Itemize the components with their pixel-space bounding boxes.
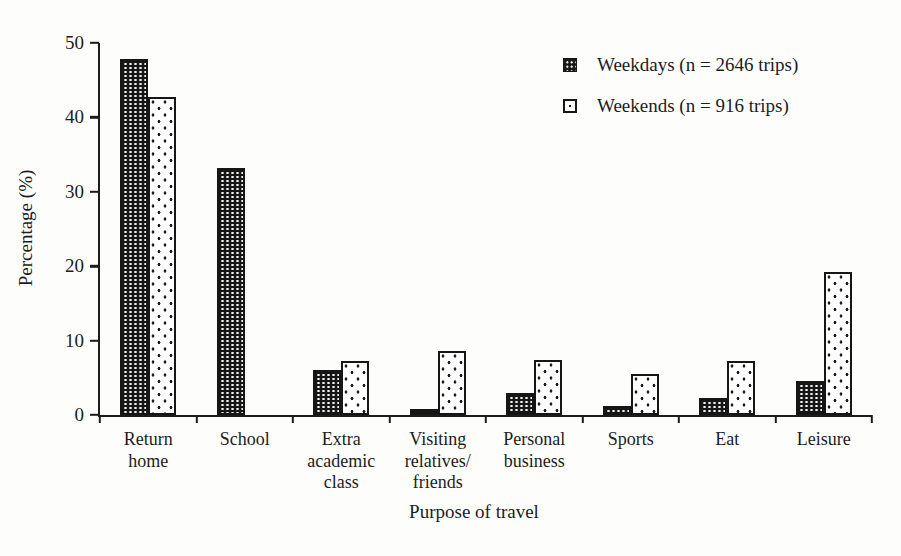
y-axis-tick-label: 10 bbox=[65, 329, 84, 351]
x-axis-tick bbox=[485, 415, 487, 423]
legend-item-weekdays: Weekdays (n = 2646 trips) bbox=[563, 54, 798, 76]
bar-weekends-leisure bbox=[824, 272, 852, 415]
legend-label-weekends: Weekends (n = 916 trips) bbox=[597, 95, 789, 117]
bar-weekends-sports bbox=[631, 374, 659, 415]
bar-weekends-visiting-relatives-friends bbox=[438, 351, 466, 415]
x-axis-tick bbox=[99, 415, 101, 423]
bar-weekdays-visiting-relatives-friends bbox=[410, 409, 438, 415]
y-axis-tick-label: 20 bbox=[65, 255, 84, 277]
y-axis-tick-label: 50 bbox=[65, 32, 84, 54]
bar-weekends-eat bbox=[727, 361, 755, 415]
y-axis-tick bbox=[90, 191, 99, 193]
x-axis-category-label-school: School bbox=[197, 429, 294, 451]
legend: Weekdays (n = 2646 trips) Weekends (n = … bbox=[563, 54, 798, 117]
x-axis-title: Purpose of travel bbox=[88, 501, 860, 523]
y-axis-tick-label: 40 bbox=[65, 106, 84, 128]
x-axis-tick bbox=[774, 415, 776, 423]
x-axis-category-label-sports: Sports bbox=[583, 429, 680, 451]
bar-weekdays-leisure bbox=[796, 381, 824, 415]
x-axis-tick bbox=[195, 415, 197, 423]
bar-weekdays-return-home bbox=[120, 59, 148, 415]
bar-weekends-return-home bbox=[148, 97, 176, 415]
y-axis-tick bbox=[90, 116, 99, 118]
x-axis-tick bbox=[678, 415, 680, 423]
x-axis-category-label-visiting-relatives-friends: Visiting relatives/ friends bbox=[390, 429, 487, 494]
y-axis-tick bbox=[90, 414, 99, 416]
legend-label-weekdays: Weekdays (n = 2646 trips) bbox=[597, 54, 798, 76]
x-axis-category-label-personal-business: Personal business bbox=[486, 429, 583, 472]
y-axis-tick bbox=[90, 339, 99, 341]
bar-weekdays-sports bbox=[603, 406, 631, 415]
y-axis-tick-label: 30 bbox=[65, 180, 84, 202]
x-axis-category-label-eat: Eat bbox=[679, 429, 776, 451]
bar-weekdays-extra-academic-class bbox=[313, 370, 341, 415]
x-axis-tick bbox=[871, 415, 873, 423]
x-axis-tick bbox=[581, 415, 583, 423]
weekdays-pattern-swatch bbox=[563, 58, 577, 72]
weekends-pattern-swatch bbox=[563, 99, 577, 113]
y-axis-tick-label: 0 bbox=[75, 404, 85, 426]
x-axis-category-label-extra-academic-class: Extra academic class bbox=[293, 429, 390, 494]
y-axis-tick bbox=[90, 265, 99, 267]
y-axis-title: Percentage (%) bbox=[15, 170, 37, 287]
bar-weekdays-personal-business bbox=[506, 393, 534, 415]
bar-weekends-extra-academic-class bbox=[341, 361, 369, 415]
y-axis-tick bbox=[90, 42, 99, 44]
x-axis-tick bbox=[388, 415, 390, 423]
bar-weekdays-eat bbox=[699, 398, 727, 415]
x-axis-tick bbox=[292, 415, 294, 423]
bar-weekdays-school bbox=[217, 168, 245, 415]
bar-weekends-personal-business bbox=[534, 360, 562, 415]
legend-item-weekends: Weekends (n = 916 trips) bbox=[563, 95, 798, 117]
x-axis-category-label-leisure: Leisure bbox=[776, 429, 873, 451]
travel-purpose-bar-chart: Percentage (%) 01020304050Return homeSch… bbox=[0, 0, 901, 556]
x-axis-category-label-return-home: Return home bbox=[100, 429, 197, 472]
